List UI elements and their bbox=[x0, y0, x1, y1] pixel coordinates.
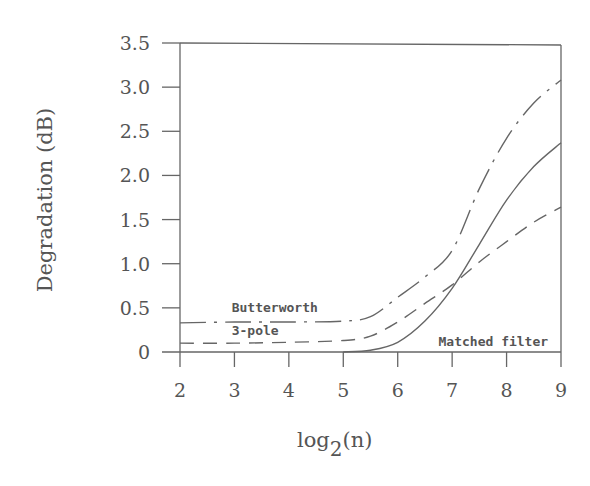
y-tick-label: 0 bbox=[138, 341, 150, 363]
x-axis-title-arg: (n) bbox=[343, 428, 373, 452]
x-axis-ticks: 23456789 bbox=[174, 352, 567, 401]
curve-matched-filter bbox=[343, 143, 561, 352]
curve-butterworth bbox=[180, 80, 561, 323]
degradation-chart: 00.51.01.52.02.53.03.5 23456789 Butterwo… bbox=[0, 0, 590, 486]
x-tick-label: 3 bbox=[228, 379, 240, 401]
y-tick-label: 3.0 bbox=[120, 76, 150, 98]
y-tick-label: 2.0 bbox=[120, 164, 150, 186]
plot-frame bbox=[162, 43, 561, 352]
x-tick-label: 9 bbox=[555, 379, 567, 401]
x-axis-title-subscript: 2 bbox=[330, 437, 343, 461]
y-axis-ticks: 00.51.01.52.02.53.03.5 bbox=[120, 32, 180, 363]
x-axis-title: log2(n) bbox=[297, 428, 372, 461]
x-tick-label: 8 bbox=[501, 379, 513, 401]
y-axis-title: Degradation (dB) bbox=[33, 108, 57, 293]
y-tick-label: 1.0 bbox=[120, 253, 150, 275]
curve-annotations: Butterworth3-poleMatched filter bbox=[232, 300, 549, 349]
x-tick-label: 5 bbox=[337, 379, 349, 401]
y-tick-label: 2.5 bbox=[120, 120, 150, 142]
annotation-3-pole: 3-pole bbox=[232, 323, 279, 338]
x-tick-label: 2 bbox=[174, 379, 186, 401]
y-tick-label: 0.5 bbox=[120, 297, 150, 319]
x-tick-label: 7 bbox=[446, 379, 458, 401]
x-tick-label: 6 bbox=[392, 379, 404, 401]
annotation-butterworth: Butterworth bbox=[232, 300, 318, 315]
y-tick-label: 3.5 bbox=[120, 32, 150, 54]
x-axis-title-base: log bbox=[297, 428, 330, 452]
annotation-matched-filter: Matched filter bbox=[439, 334, 549, 349]
top-border bbox=[180, 43, 561, 45]
y-tick-label: 1.5 bbox=[120, 209, 150, 231]
x-tick-label: 4 bbox=[283, 379, 295, 401]
